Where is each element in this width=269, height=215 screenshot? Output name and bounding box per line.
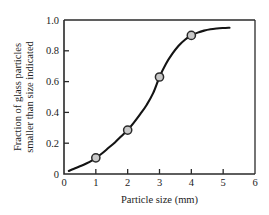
x-axis-title: Particle size (mm): [121, 194, 198, 206]
x-tick-label: 0: [61, 177, 66, 188]
y-tick-label: 0.4: [46, 107, 60, 118]
y-tick-label: 0.8: [46, 45, 59, 56]
x-tick-label: 2: [125, 177, 130, 188]
data-point-marker: [124, 126, 132, 134]
x-tick-label: 6: [252, 177, 257, 188]
x-tick-label: 3: [157, 177, 162, 188]
chart-background: [0, 0, 269, 215]
y-axis-title-line-2: smaller than size indicated: [24, 40, 35, 152]
chart-figure: 0123456 00.20.40.60.81.0 Particle size (…: [0, 0, 269, 215]
y-axis-title-line-1: Fraction of glass particles: [12, 43, 23, 151]
y-tick-label: 0.2: [46, 138, 59, 149]
data-point-marker: [92, 154, 100, 162]
data-point-marker: [155, 73, 163, 81]
data-point-marker: [187, 31, 195, 39]
y-tick-label: 0.6: [46, 76, 59, 87]
x-tick-label: 1: [93, 177, 98, 188]
x-tick-label: 5: [221, 177, 226, 188]
y-tick-label: 0: [54, 169, 59, 180]
y-tick-label: 1.0: [46, 15, 59, 26]
particle-size-distribution-chart: 0123456 00.20.40.60.81.0 Particle size (…: [0, 0, 269, 215]
x-tick-label: 4: [189, 177, 195, 188]
